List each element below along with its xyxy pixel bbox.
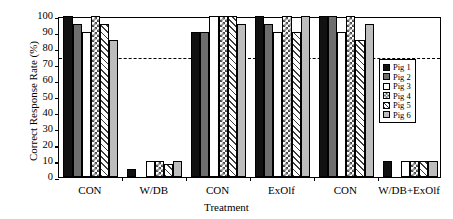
x-tick-mark xyxy=(314,177,315,181)
legend-label: Pig 5 xyxy=(393,101,411,110)
bar xyxy=(401,161,410,177)
y-tick-label: 70 xyxy=(43,58,54,69)
bar xyxy=(127,169,136,177)
bar xyxy=(301,16,310,177)
bar xyxy=(73,24,82,177)
legend-label: Pig 1 xyxy=(393,63,411,72)
legend-label: Pig 3 xyxy=(393,82,411,91)
legend-label: Pig 6 xyxy=(393,111,411,120)
x-category-label: ExOlf xyxy=(250,184,314,196)
x-tick-mark xyxy=(122,177,123,181)
x-category-label: CON xyxy=(58,184,122,196)
bar-group xyxy=(123,18,187,177)
bar xyxy=(355,40,364,177)
bar-group xyxy=(314,18,378,177)
bar xyxy=(191,32,200,177)
x-category-label: CON xyxy=(186,184,250,196)
bar xyxy=(109,40,118,177)
bar xyxy=(237,24,246,177)
bar xyxy=(63,16,72,177)
y-tick-label: 40 xyxy=(43,107,54,118)
bar xyxy=(337,32,346,177)
x-tick-mark xyxy=(186,177,187,181)
bar xyxy=(155,161,164,177)
legend-item[interactable]: Pig 6 xyxy=(383,111,411,120)
legend-item[interactable]: Pig 1 xyxy=(383,63,411,72)
bar xyxy=(365,24,374,177)
bar xyxy=(292,32,301,177)
bar xyxy=(91,16,100,177)
chart-container: Correct Response Rate (%) 01020304050607… xyxy=(0,0,453,219)
legend-swatch-icon xyxy=(383,102,390,109)
x-tick-mark xyxy=(250,177,251,181)
bar xyxy=(200,32,209,177)
bar xyxy=(100,24,109,177)
bar xyxy=(410,161,419,177)
y-tick-label: 60 xyxy=(43,74,54,85)
bar-group xyxy=(59,18,123,177)
legend-item[interactable]: Pig 2 xyxy=(383,73,411,82)
y-tick-label: 20 xyxy=(43,139,54,150)
x-axis-title: Treatment xyxy=(0,201,453,213)
legend: Pig 1Pig 2Pig 3Pig 4Pig 5Pig 6 xyxy=(379,59,416,123)
bar xyxy=(264,24,273,177)
bar xyxy=(428,161,437,177)
bar-group xyxy=(251,18,315,177)
legend-swatch-icon xyxy=(383,73,390,80)
x-category-label: W/DB+ExOlf xyxy=(377,184,441,196)
legend-swatch-icon xyxy=(383,64,390,71)
bar xyxy=(282,16,291,177)
x-category-label: CON xyxy=(313,184,377,196)
bar xyxy=(209,16,218,177)
legend-label: Pig 2 xyxy=(393,73,411,82)
y-tick-mark xyxy=(55,179,59,180)
y-tick-label: 80 xyxy=(43,42,54,53)
x-category-label: W/DB xyxy=(122,184,186,196)
bar xyxy=(328,16,337,177)
x-tick-mark xyxy=(378,177,379,181)
y-tick-label: 30 xyxy=(43,123,54,134)
bar xyxy=(346,16,355,177)
legend-item[interactable]: Pig 3 xyxy=(383,82,411,91)
y-tick-label: 0 xyxy=(48,171,53,182)
bar xyxy=(319,16,328,177)
legend-item[interactable]: Pig 4 xyxy=(383,92,411,101)
bar xyxy=(273,32,282,177)
y-tick-label: 10 xyxy=(43,155,54,166)
bar xyxy=(383,161,392,177)
bar xyxy=(255,16,264,177)
y-tick-label: 100 xyxy=(37,10,53,21)
y-axis-title: Correct Response Rate (%) xyxy=(27,6,39,196)
bar xyxy=(228,16,237,177)
y-tick-label: 50 xyxy=(43,91,54,102)
bar xyxy=(419,161,428,177)
legend-swatch-icon xyxy=(383,111,390,118)
bar xyxy=(146,161,155,177)
legend-swatch-icon xyxy=(383,83,390,90)
bar xyxy=(82,32,91,177)
bar xyxy=(164,164,173,177)
legend-item[interactable]: Pig 5 xyxy=(383,101,411,110)
legend-swatch-icon xyxy=(383,92,390,99)
y-tick-label: 90 xyxy=(43,26,54,37)
bar-group xyxy=(187,18,251,177)
bar xyxy=(173,161,182,177)
legend-label: Pig 4 xyxy=(393,92,411,101)
bar xyxy=(219,16,228,177)
